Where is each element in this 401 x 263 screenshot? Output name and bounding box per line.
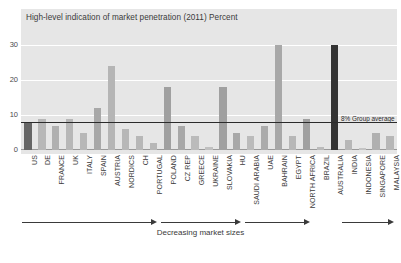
bar — [261, 126, 268, 151]
bar — [205, 147, 212, 151]
x-tick-label: NORTH AFRICA — [309, 155, 316, 208]
x-tick-label: MALAYSIA — [393, 155, 400, 190]
segment-arrow-line — [245, 222, 305, 223]
segment-arrow-line — [22, 222, 151, 223]
x-tick-label-wrap: FRANCE — [58, 155, 65, 184]
bar — [233, 133, 240, 151]
x-tick-label: CZ REP — [184, 155, 191, 181]
x-tick-label-wrap: PORTUGAL — [156, 155, 163, 194]
x-tick-label-wrap: UKRAINE — [212, 155, 219, 187]
x-tick-label: ITALY — [86, 155, 93, 174]
x-tick-label-wrap: GREECE — [198, 155, 205, 185]
bar — [164, 87, 171, 150]
x-tick-label: AUSTRIA — [114, 155, 121, 186]
bar — [178, 126, 185, 151]
x-tick-label: UK — [72, 155, 79, 165]
segment-arrow-head — [388, 219, 394, 225]
x-tick-label-wrap: UAE — [267, 155, 274, 170]
x-tick-label: DE — [44, 155, 51, 165]
bar — [66, 119, 73, 151]
bar — [80, 133, 87, 151]
bar — [386, 136, 393, 150]
x-tick-label-wrap: AUSTRALIA — [337, 155, 344, 195]
x-tick-label: GREECE — [198, 155, 205, 185]
x-axis-caption: Decreasing market sizes — [0, 228, 401, 237]
x-tick-label: INDONESIA — [365, 155, 372, 194]
x-tick-label-wrap: SLOVAKIA — [226, 155, 233, 190]
x-tick-label-wrap: BAHRAIN — [281, 155, 288, 187]
bar — [275, 45, 282, 150]
x-tick-label: POLAND — [170, 155, 177, 184]
x-tick-label-wrap: NORDICS — [128, 155, 135, 188]
x-tick-label: HU — [239, 155, 246, 165]
group-average-label: 8% Group average — [341, 115, 395, 122]
segment-arrow-head — [151, 219, 157, 225]
x-tick-label-wrap: DE — [44, 155, 51, 165]
x-tick-label: FRANCE — [58, 155, 65, 184]
group-average-line — [21, 122, 397, 123]
x-tick-label: SLOVAKIA — [226, 155, 233, 190]
bar — [331, 45, 338, 150]
x-tick-label-wrap: EGYPT — [295, 155, 302, 179]
x-tick-label-wrap: SPAIN — [100, 155, 107, 176]
bar — [191, 136, 198, 150]
bar — [136, 136, 143, 150]
x-tick-label: SAUDI ARABIA — [253, 155, 260, 205]
x-tick-label-wrap: ITALY — [86, 155, 93, 174]
x-tick-label-wrap: CZ REP — [184, 155, 191, 181]
x-tick-label: PORTUGAL — [156, 155, 163, 194]
chart-screenshot: High-level indication of market penetrat… — [0, 0, 401, 263]
x-tick-label: BRAZIL — [323, 155, 330, 180]
x-tick-label: SPAIN — [100, 155, 107, 176]
x-tick-label-wrap: UK — [72, 155, 79, 165]
x-tick-label-wrap: INDIA — [351, 155, 358, 174]
bar — [24, 122, 31, 150]
x-tick-label: SINGAPORE — [379, 155, 386, 198]
x-tick-label: NORDICS — [128, 155, 135, 188]
x-axis-labels: USDEFRANCEUKITALYSPAINAUSTRIANORDICSCHPO… — [21, 155, 397, 211]
x-tick-label-wrap: SINGAPORE — [379, 155, 386, 198]
x-tick-label: US — [31, 155, 38, 165]
x-tick-label-wrap: INDONESIA — [365, 155, 372, 194]
bar — [372, 133, 379, 151]
segment-arrow-head — [304, 219, 310, 225]
segment-arrow-line — [342, 222, 388, 223]
y-tick-label: 30 — [2, 41, 18, 49]
bar — [247, 136, 254, 150]
x-tick-label: INDIA — [351, 155, 358, 174]
x-tick-label-wrap: BRAZIL — [323, 155, 330, 180]
bar — [303, 119, 310, 151]
bar — [52, 126, 59, 151]
x-tick-label-wrap: AUSTRIA — [114, 155, 121, 186]
x-tick-label: UKRAINE — [212, 155, 219, 187]
bar — [359, 148, 366, 150]
chart-title: High-level indication of market penetrat… — [26, 13, 238, 22]
x-tick-label: EGYPT — [295, 155, 302, 179]
x-tick-label-wrap: CH — [142, 155, 149, 165]
bar-series — [21, 38, 397, 150]
x-tick-label: CH — [142, 155, 149, 165]
x-tick-label-wrap: POLAND — [170, 155, 177, 184]
x-tick-label: AUSTRALIA — [337, 155, 344, 195]
x-tick-label: UAE — [267, 155, 274, 170]
x-tick-label-wrap: NORTH AFRICA — [309, 155, 316, 208]
bar — [150, 143, 157, 150]
bar — [345, 140, 352, 151]
x-tick-label-wrap: MALAYSIA — [393, 155, 400, 190]
x-tick-label: BAHRAIN — [281, 155, 288, 187]
y-tick-label: 10 — [2, 111, 18, 119]
bar — [122, 129, 129, 150]
x-tick-label-wrap: SAUDI ARABIA — [253, 155, 260, 205]
segment-arrow-head — [235, 219, 241, 225]
segment-arrow-line — [161, 222, 235, 223]
y-tick-label: 0 — [2, 146, 18, 154]
bar — [219, 87, 226, 150]
bar — [317, 147, 324, 151]
y-tick-label: 20 — [2, 76, 18, 84]
bar — [94, 108, 101, 150]
x-tick-label-wrap: US — [31, 155, 38, 165]
bar — [38, 119, 45, 151]
x-tick-label-wrap: HU — [239, 155, 246, 165]
bar — [108, 66, 115, 150]
bar — [289, 136, 296, 150]
